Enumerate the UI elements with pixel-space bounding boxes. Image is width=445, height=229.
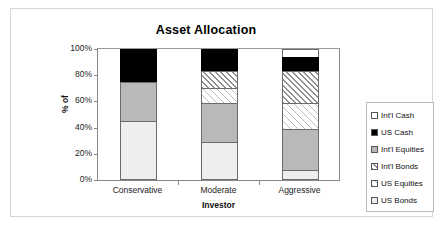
bar-segment[interactable] xyxy=(282,103,319,129)
legend-item-label: Int'l Equities xyxy=(381,146,424,154)
y-axis-tick-mark xyxy=(94,128,98,129)
bar-stack[interactable] xyxy=(282,49,319,180)
x-axis-category-label: Aggressive xyxy=(259,185,340,195)
legend-item-label: US Bonds xyxy=(381,197,417,205)
bar-stack[interactable] xyxy=(201,49,238,180)
y-axis-tick-mark xyxy=(94,49,98,50)
bar-segment[interactable] xyxy=(120,82,157,121)
legend-item-label: US Equities xyxy=(381,180,423,188)
legend-item-label: US Cash xyxy=(381,129,413,137)
plot-area: 0%20%40%60%80%100% xyxy=(97,48,340,181)
y-axis-tick-mark xyxy=(94,180,98,181)
legend-item[interactable]: US Equities xyxy=(371,175,430,192)
legend-item[interactable]: Int'l Cash xyxy=(371,107,430,124)
bar-segment[interactable] xyxy=(201,103,238,142)
bar-segment[interactable] xyxy=(282,129,319,170)
grey-swatch-icon xyxy=(371,146,378,153)
y-axis-tick-label: 40% xyxy=(75,122,92,132)
hatch-dense-swatch-icon xyxy=(371,163,378,170)
legend-item[interactable]: Int'l Bonds xyxy=(371,158,430,175)
y-axis-tick-mark xyxy=(94,75,98,76)
bar-segment[interactable] xyxy=(282,170,319,181)
x-axis-title: Investor xyxy=(97,200,340,210)
bar-segment[interactable] xyxy=(201,49,238,71)
chart-title: Asset Allocation xyxy=(106,23,306,37)
white-swatch-icon xyxy=(371,112,378,119)
bar-stack[interactable] xyxy=(120,49,157,180)
bar-segment[interactable] xyxy=(201,142,238,180)
black-swatch-icon xyxy=(371,129,378,136)
y-axis-tick-label: 60% xyxy=(75,95,92,105)
legend-item-label: Int'l Bonds xyxy=(381,163,418,171)
y-axis-title: % of xyxy=(60,95,70,113)
legend-item[interactable]: US Cash xyxy=(371,124,430,141)
legend-item[interactable]: US Bonds xyxy=(371,192,430,209)
bar-segment[interactable] xyxy=(201,88,238,102)
x-axis-category-label: Moderate xyxy=(178,185,259,195)
bar-segment[interactable] xyxy=(282,71,319,102)
chart-frame: Asset Allocation % of 0%20%40%60%80%100%… xyxy=(10,8,433,217)
x-axis-category-label: Conservative xyxy=(97,185,178,195)
y-axis-tick-label: 80% xyxy=(75,69,92,79)
light-grey-swatch-icon xyxy=(371,197,378,204)
bar-segment[interactable] xyxy=(120,49,157,82)
bar-segment[interactable] xyxy=(282,49,319,57)
bar-segment[interactable] xyxy=(120,121,157,180)
chart-legend: Int'l CashUS CashInt'l EquitiesInt'l Bon… xyxy=(366,102,434,212)
bar-segment[interactable] xyxy=(282,57,319,71)
y-axis-tick-label: 20% xyxy=(75,148,92,158)
hatch-light-swatch-icon xyxy=(371,180,378,187)
legend-item-label: Int'l Cash xyxy=(381,112,414,120)
y-axis-tick-label: 100% xyxy=(70,43,92,53)
y-axis-tick-label: 0% xyxy=(80,174,92,184)
y-axis-tick-mark xyxy=(94,101,98,102)
legend-item[interactable]: Int'l Equities xyxy=(371,141,430,158)
bar-segment[interactable] xyxy=(201,71,238,88)
y-axis-tick-mark xyxy=(94,154,98,155)
